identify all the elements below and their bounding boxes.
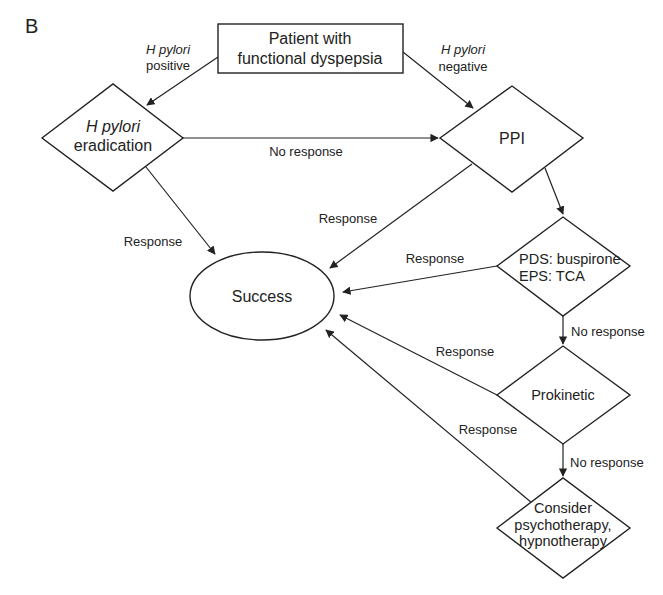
node-success-label: Success: [232, 288, 292, 305]
edge-label-response-hp: Response: [124, 234, 183, 249]
node-psych-line1: Consider: [534, 500, 592, 516]
node-pds-line2: EPS: TCA: [519, 268, 585, 284]
edge-prokinetic-to-success: Response: [340, 315, 497, 395]
edge-hp-to-ppi: No response: [183, 138, 438, 159]
edge-prokinetic-to-psych: No response: [563, 444, 644, 476]
edge-hp-to-success: Response: [124, 167, 215, 254]
node-hp-eradication: H pylori eradication: [42, 84, 183, 191]
node-start: Patient with functional dyspepsia: [218, 24, 403, 73]
panel-label: B: [25, 15, 38, 37]
node-prokinetic-label: Prokinetic: [531, 387, 595, 403]
treatment-flowchart: B H pylori positive H pylori negative No…: [0, 0, 663, 595]
edge-label-hp-positive-line1: H pylori: [146, 42, 191, 57]
edge-label-hp-negative-line2: negative: [438, 59, 487, 74]
edge-label-no-response-hp: No response: [269, 144, 343, 159]
node-start-line1: Patient with: [269, 30, 352, 47]
node-ppi-label: PPI: [499, 130, 525, 147]
edge-ppi-to-pds: [545, 168, 563, 214]
edge-label-no-response-prokinetic: No response: [570, 455, 644, 470]
edge-label-no-response-pds: No response: [571, 324, 645, 339]
node-start-line2: functional dyspepsia: [238, 50, 383, 67]
node-hp-line1: H pylori: [86, 118, 141, 135]
node-ppi: PPI: [440, 86, 583, 192]
node-pds-eps: PDS: buspirone EPS: TCA: [497, 217, 630, 316]
edge-label-hp-positive-line2: positive: [146, 58, 190, 73]
node-success: Success: [190, 252, 334, 340]
edge-label-response-pds: Response: [406, 251, 465, 266]
edge-label-response-psych: Response: [459, 422, 518, 437]
node-psych-line2: psychotherapy,: [514, 517, 611, 533]
node-psych-line3: hypnotherapy: [519, 533, 608, 549]
edge-pds-to-success: Response: [343, 251, 497, 292]
edge-start-to-ppi: H pylori negative: [403, 42, 488, 108]
node-hp-line2: eradication: [74, 137, 152, 154]
node-psych: Consider psychotherapy, hypnotherapy: [497, 478, 630, 578]
edge-label-hp-negative-line1: H pylori: [441, 42, 486, 57]
edge-start-to-hp: H pylori positive: [146, 42, 218, 105]
edge-psych-to-success: Response: [326, 330, 532, 503]
node-pds-line1: PDS: buspirone: [519, 251, 621, 267]
edge-label-response-prokinetic: Response: [436, 344, 495, 359]
edge-pds-to-prokinetic: No response: [563, 316, 645, 344]
edge-label-response-ppi: Response: [319, 211, 378, 226]
